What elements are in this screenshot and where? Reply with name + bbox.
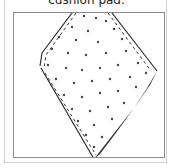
cushion-pad-illustration [14, 13, 165, 158]
cushion-pad-figure [13, 12, 165, 158]
instruction-caption: cushion pad. [0, 0, 173, 7]
